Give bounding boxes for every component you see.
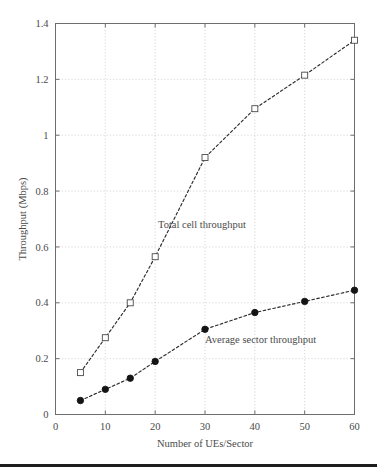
data-point	[302, 72, 308, 78]
data-point	[102, 335, 108, 341]
x-tick-label: 20	[150, 421, 161, 432]
y-tick-label: 0.2	[35, 353, 48, 364]
data-point	[252, 309, 258, 315]
y-tick-label: 0.8	[35, 186, 48, 197]
data-point	[301, 298, 307, 304]
y-axis-title: Throughput (Mbps)	[17, 177, 29, 261]
data-point	[152, 358, 158, 364]
bottom-rule	[0, 464, 377, 467]
x-tick-label: 10	[100, 421, 111, 432]
data-point	[152, 254, 158, 260]
data-point	[202, 326, 208, 332]
series-label: Average sector throughput	[205, 334, 316, 345]
data-point	[127, 300, 133, 306]
x-tick-label: 30	[200, 421, 211, 432]
series-line-1	[80, 40, 354, 372]
y-tick-label: 0.6	[35, 242, 48, 253]
y-tick-label: 1	[43, 130, 48, 141]
data-point	[202, 155, 208, 161]
series-label: Total cell throughput	[158, 219, 246, 230]
y-tick-label: 1.4	[35, 18, 49, 29]
data-point	[77, 370, 83, 376]
data-point	[351, 287, 357, 293]
chart-figure: 010203040506000.20.40.60.811.21.4 Total …	[0, 0, 377, 474]
y-tick-label: 0.4	[35, 297, 49, 308]
data-point	[77, 397, 83, 403]
series-line-2	[80, 290, 354, 400]
x-tick-label: 60	[349, 421, 360, 432]
data-point	[352, 37, 358, 43]
x-axis-title: Number of UEs/Sector	[157, 438, 254, 449]
series-annotations: Total cell throughputAverage sector thro…	[158, 219, 316, 345]
y-tick-label: 1.2	[35, 74, 48, 85]
data-point	[102, 386, 108, 392]
x-tick-label: 50	[299, 421, 310, 432]
x-tick-label: 0	[53, 421, 58, 432]
data-point	[252, 106, 258, 112]
data-point	[127, 375, 133, 381]
y-tick-label: 0	[43, 409, 48, 420]
throughput-line-chart: 010203040506000.20.40.60.811.21.4 Total …	[0, 0, 377, 474]
x-tick-label: 40	[250, 421, 261, 432]
